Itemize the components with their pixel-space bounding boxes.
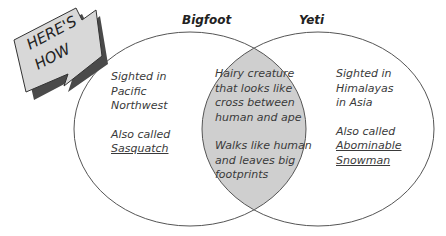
- text-line: Also called: [336, 125, 402, 140]
- text-line: Sighted in: [111, 70, 170, 85]
- heres-how-badge: HERE'S HOW: [14, 8, 108, 100]
- text-line: Sighted in: [336, 67, 402, 82]
- text-line: Pacific: [111, 85, 170, 100]
- text-line: footprints: [215, 168, 312, 183]
- text-line: and leaves big: [215, 154, 312, 169]
- text-line: in Asia: [336, 96, 402, 111]
- text-line: Also called: [111, 128, 170, 143]
- text-line: Himalayas: [336, 82, 402, 97]
- alias-text: Snowman: [336, 154, 402, 169]
- alias-text: Sasquatch: [111, 142, 170, 157]
- text-line: Hairy creature: [215, 67, 312, 82]
- text-line: human and ape: [215, 111, 312, 126]
- text-line: Walks like human: [215, 139, 312, 154]
- overlap-text: Hairy creature that looks like cross bet…: [215, 67, 312, 183]
- alias-text: Abominable: [336, 139, 402, 154]
- text-line: cross between: [215, 96, 312, 111]
- yeti-label: Yeti: [299, 13, 324, 27]
- bigfoot-only-text: Sighted in Pacific Northwest Also called…: [111, 70, 170, 157]
- text-line: that looks like: [215, 82, 312, 97]
- text-line: Northwest: [111, 99, 170, 114]
- yeti-only-text: Sighted in Himalayas in Asia Also called…: [336, 67, 402, 168]
- bigfoot-label: Bigfoot: [182, 13, 231, 27]
